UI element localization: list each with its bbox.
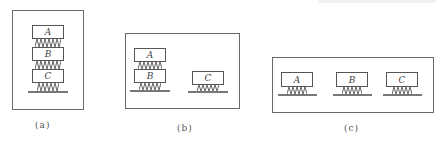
- block-c: C: [192, 71, 224, 85]
- ground-line: [28, 91, 68, 93]
- block-a: A: [32, 25, 64, 39]
- caption-b: (b): [177, 123, 193, 133]
- spring-icon: [342, 87, 362, 94]
- caption-a: (a): [35, 120, 50, 130]
- ground-line: [333, 94, 372, 96]
- block-b: B: [134, 69, 166, 83]
- ground-line: [383, 94, 422, 96]
- ground-line: [188, 91, 228, 93]
- caption-c: (c): [344, 123, 359, 133]
- spring-icon: [138, 62, 162, 69]
- spring-icon: [287, 87, 307, 94]
- block-b: B: [32, 47, 64, 61]
- block-b: B: [336, 72, 368, 87]
- block-a: A: [281, 72, 313, 87]
- spring-icon: [37, 83, 59, 91]
- spring-icon: [35, 61, 61, 69]
- spring-icon: [35, 39, 61, 47]
- ground-line: [130, 90, 170, 92]
- block-c: C: [386, 72, 418, 87]
- page-edge-artifact: [318, 0, 436, 3]
- block-c: C: [32, 69, 64, 83]
- block-a: A: [134, 48, 166, 62]
- ground-line: [278, 94, 317, 96]
- spring-icon: [392, 87, 412, 94]
- spring-icon: [139, 83, 161, 90]
